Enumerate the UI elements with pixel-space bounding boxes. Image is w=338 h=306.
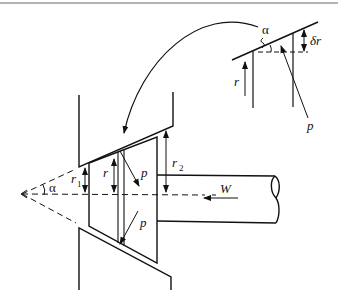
upper-housing: [79, 92, 173, 167]
inset-p-arrow: [281, 46, 308, 118]
main-figure: [79, 92, 279, 290]
p-upper-label: p: [140, 165, 148, 180]
alpha-arc-main: [43, 185, 45, 195]
inset-alpha-arc: [270, 45, 271, 52]
r1-subscript: 1: [77, 179, 82, 189]
inset-delta-r-label: δr: [310, 33, 322, 48]
cone-dashed-lower: [22, 194, 76, 223]
inset-alpha-label: α: [262, 22, 269, 37]
r2-label: r: [172, 155, 178, 170]
inset-r-label: r: [234, 74, 240, 89]
p-lower-label: p: [139, 215, 147, 230]
p-lower-arrow: [120, 211, 138, 244]
shaft-bottom: [157, 221, 276, 223]
shaft-top: [157, 175, 275, 176]
alpha-label-main: α: [49, 180, 56, 195]
r-label: r: [103, 165, 109, 180]
inset-detail: α r δr p: [232, 22, 322, 133]
shaft-break: [271, 176, 279, 223]
r2-subscript: 2: [179, 163, 184, 173]
w-label: W: [220, 181, 232, 196]
inset-cone-surface: [232, 22, 318, 60]
p-upper-arrow: [120, 151, 139, 186]
inset-p-label: p: [306, 118, 314, 133]
shaft-end: [275, 176, 279, 198]
conical-bearing-diagram: α r 1 r r 2 p p W α r δr p: [0, 0, 338, 306]
